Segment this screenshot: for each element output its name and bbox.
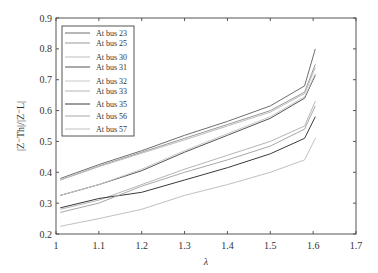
legend: At bus 23At bus 25At bus 30At bus 31At b… — [62, 26, 134, 136]
y-tick-label: 0.4 — [40, 167, 53, 178]
y-tick-label: 0.5 — [40, 136, 53, 147]
y-tick-label: 0.8 — [40, 43, 53, 54]
y-tick-label: 0.9 — [40, 13, 53, 24]
y-tick-label: 0.6 — [40, 105, 53, 116]
x-tick-label: 1.4 — [221, 240, 234, 251]
y-tick-label: 0.2 — [40, 229, 53, 240]
x-axis-label: λ — [203, 256, 209, 267]
legend-label: At bus 33 — [96, 87, 127, 96]
y-axis-label: |Z⁻Th|/|Z⁻L| — [15, 101, 26, 151]
legend-label: At bus 35 — [96, 100, 127, 109]
series-line — [60, 138, 315, 226]
x-tick-label: 1.7 — [350, 240, 363, 251]
x-tick-label: 1.1 — [93, 240, 106, 251]
legend-label: At bus 57 — [96, 125, 127, 134]
y-tick-label: 0.7 — [40, 74, 53, 85]
x-tick-label: 1 — [54, 240, 59, 251]
x-tick-label: 1.3 — [178, 240, 191, 251]
legend-label: At bus 32 — [96, 77, 127, 86]
line-chart: 11.11.21.31.41.51.61.70.20.30.40.50.60.7… — [0, 0, 378, 273]
x-tick-label: 1.2 — [135, 240, 148, 251]
x-tick-label: 1.5 — [264, 240, 277, 251]
legend-label: At bus 25 — [96, 39, 127, 48]
legend-label: At bus 23 — [96, 29, 127, 38]
y-tick-label: 0.3 — [40, 198, 53, 209]
legend-label: At bus 56 — [96, 112, 127, 121]
x-tick-label: 1.6 — [307, 240, 320, 251]
legend-label: At bus 31 — [96, 63, 127, 72]
legend-label: At bus 30 — [96, 53, 127, 62]
